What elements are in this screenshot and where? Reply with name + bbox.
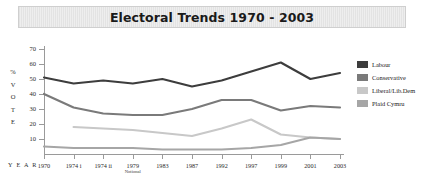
legend-label: Labour <box>372 61 390 68</box>
legend-label: Liberal/Lib.Dem <box>372 87 415 94</box>
series-line-plaid-cymru <box>44 138 340 150</box>
series-line-conservative <box>44 94 340 115</box>
chart-legend: LabourConservativeLiberal/Lib.DemPlaid C… <box>357 58 415 110</box>
legend-item-labour[interactable]: Labour <box>357 58 415 71</box>
legend-swatch-icon <box>357 61 368 68</box>
series-line-labour <box>44 63 340 87</box>
legend-label: Plaid Cymru <box>372 100 405 107</box>
series-line-liberal-lib-dem <box>74 120 340 140</box>
legend-swatch-icon <box>357 100 368 107</box>
legend-item-conservative[interactable]: Conservative <box>357 71 415 84</box>
legend-label: Conservative <box>372 74 406 81</box>
legend-swatch-icon <box>357 74 368 81</box>
legend-swatch-icon <box>357 87 368 94</box>
legend-item-plaid-cymru[interactable]: Plaid Cymru <box>357 97 415 110</box>
legend-item-liberal-lib-dem[interactable]: Liberal/Lib.Dem <box>357 84 415 97</box>
electoral-trends-chart: Electoral Trends 1970 - 2003 % V O T E Y… <box>0 0 424 181</box>
